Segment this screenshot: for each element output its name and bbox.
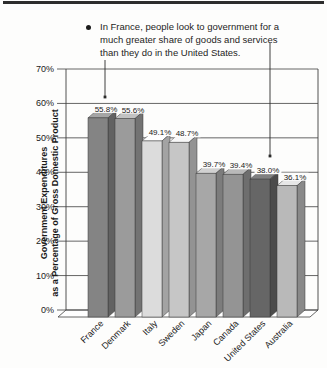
y-tick-label-70%: 70% [36, 64, 54, 74]
pointer-dot-united-states [269, 155, 272, 158]
value-label-sweden: 48.7% [176, 129, 199, 138]
y-tick-label-10%: 10% [36, 271, 54, 281]
bar-france [88, 118, 108, 317]
y-tick-label-60%: 60% [36, 98, 54, 108]
bar-australia [277, 186, 297, 317]
y-tick-label-0%: 0% [41, 305, 54, 315]
y-tick-label-30%: 30% [36, 202, 54, 212]
x-label-japan: Japan [189, 318, 213, 342]
figure-government-expenditures: In France, people look to government for… [0, 0, 327, 368]
bar-italy [142, 141, 162, 317]
bar-side-australia [297, 179, 305, 317]
x-label-italy: Italy [141, 318, 160, 337]
y-tick-label-40%: 40% [36, 167, 54, 177]
y-tick-label-20%: 20% [36, 236, 54, 246]
bar-canada [223, 174, 243, 317]
value-label-italy: 49.1% [149, 128, 172, 137]
value-label-france: 55.8% [95, 105, 118, 114]
value-label-united-states: 38.0% [257, 166, 280, 175]
value-label-canada: 39.4% [230, 161, 253, 170]
value-label-australia: 36.1% [284, 173, 307, 182]
x-label-denmark: Denmark [100, 318, 133, 351]
bar-chart-canvas: 0%10%20%30%40%50%60%70%55.8%55.6%49.1%48… [0, 0, 327, 368]
bar-denmark [115, 119, 135, 317]
bar-japan [196, 173, 216, 317]
y-tick-label-50%: 50% [36, 133, 54, 143]
pointer-dot-france [104, 96, 107, 99]
value-label-japan: 39.7% [203, 160, 226, 169]
value-label-denmark: 55.6% [122, 106, 145, 115]
x-label-australia: Australia [263, 318, 295, 350]
x-label-sweden: Sweden [156, 318, 186, 348]
bar-united-states [250, 179, 270, 317]
bar-sweden [169, 142, 189, 317]
